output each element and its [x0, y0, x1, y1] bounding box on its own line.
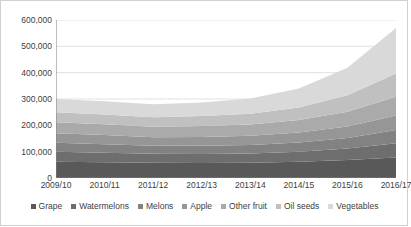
- legend-item-melons[interactable]: Melons: [138, 201, 173, 211]
- legend-label: Grape: [39, 201, 63, 211]
- y-tick-label: 400,000: [0, 68, 52, 77]
- y-tick-label: 200,000: [0, 121, 52, 130]
- x-tick-label: 2016/17: [381, 180, 411, 191]
- legend-item-grape[interactable]: Grape: [31, 201, 63, 211]
- plot-svg: [56, 20, 396, 178]
- legend-item-other-fruit[interactable]: Other fruit: [221, 201, 267, 211]
- x-tick-label: 2012/13: [186, 180, 217, 191]
- x-tick-label: 2013/14: [235, 180, 266, 191]
- legend-item-oil-seeds[interactable]: Oil seeds: [276, 201, 319, 211]
- legend-item-apple[interactable]: Apple: [182, 201, 212, 211]
- legend-label: Vegetables: [336, 201, 378, 211]
- legend-swatch-icon: [138, 204, 143, 209]
- y-axis: 0100,000200,000300,000400,000500,000600,…: [0, 0, 52, 198]
- x-tick-label: 2010/11: [90, 180, 120, 191]
- legend-label: Other fruit: [229, 201, 267, 211]
- legend-swatch-icon: [221, 204, 226, 209]
- legend-label: Apple: [190, 201, 212, 211]
- chart-legend: GrapeWatermelonsMelonsAppleOther fruitOi…: [0, 198, 409, 214]
- legend-label: Oil seeds: [284, 201, 319, 211]
- legend-swatch-icon: [328, 204, 333, 209]
- plot-area: [56, 20, 396, 178]
- y-tick-label: 100,000: [0, 147, 52, 156]
- x-tick-label: 2011/12: [138, 180, 168, 191]
- legend-swatch-icon: [71, 204, 76, 209]
- x-tick-label: 2009/10: [41, 180, 72, 191]
- legend-label: Watermelons: [79, 201, 129, 211]
- x-axis: 2009/102010/112011/122012/132013/142014/…: [56, 180, 396, 194]
- legend-swatch-icon: [31, 204, 36, 209]
- y-tick-label: 300,000: [0, 95, 52, 104]
- legend-item-watermelons[interactable]: Watermelons: [71, 201, 129, 211]
- y-tick-label: 600,000: [0, 16, 52, 25]
- x-tick-label: 2015/16: [332, 180, 363, 191]
- x-tick-label: 2014/15: [283, 180, 314, 191]
- legend-item-vegetables[interactable]: Vegetables: [328, 201, 378, 211]
- y-tick-label: 500,000: [0, 42, 52, 51]
- legend-label: Melons: [146, 201, 173, 211]
- legend-swatch-icon: [182, 204, 187, 209]
- legend-swatch-icon: [276, 204, 281, 209]
